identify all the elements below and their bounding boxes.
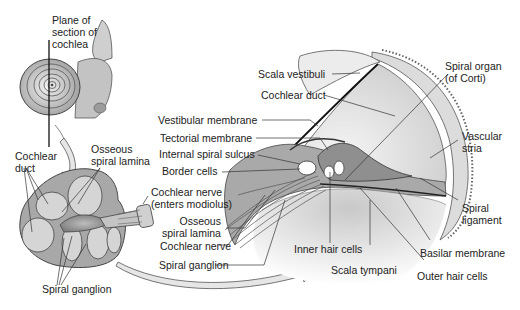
label-spiral-ganglion: Spiral ganglion	[159, 259, 228, 271]
label-internal-spiral-sulcus: Internal spiral sulcus	[159, 148, 255, 160]
label-vascular-stria: Vascular stria	[462, 130, 502, 154]
label-line: Spiral ganglion	[42, 283, 111, 295]
label-line: (of Corti)	[445, 72, 502, 84]
label-spiral-organ: Spiral organ (of Corti)	[445, 60, 502, 84]
label-inset-osseous-spiral-lamina: Osseous spiral lamina	[91, 143, 150, 167]
label-scala-vestibuli: Scala vestibuli	[258, 68, 325, 80]
label-line: spiral lamina	[91, 155, 150, 167]
label-cochlear-nerve-enters: Cochlear nerve (enters modiolus)	[151, 186, 232, 210]
label-line: Plane of	[52, 14, 97, 26]
label-plane-of-section: Plane of section of cochlea	[52, 14, 97, 50]
label-tectorial-membrane: Tectorial membrane	[160, 132, 252, 144]
label-line: Spiral organ	[445, 60, 502, 72]
label-vestibular-membrane: Vestibular membrane	[158, 114, 257, 126]
label-line: cochlea	[52, 38, 97, 50]
label-line: stria	[462, 142, 502, 154]
label-line: duct	[15, 162, 57, 174]
label-scala-tympani: Scala tympani	[331, 264, 397, 276]
label-basilar-membrane: Basilar membrane	[420, 247, 505, 259]
label-inner-hair-cells: Inner hair cells	[294, 243, 362, 255]
label-osseous-spiral-lamina: Osseous spiral lamina	[162, 215, 221, 239]
label-cochlear-nerve: Cochlear nerve	[160, 240, 231, 252]
label-inset-spiral-ganglion: Spiral ganglion	[42, 283, 111, 295]
label-inset-cochlear-duct: Cochlear duct	[15, 150, 57, 174]
label-line: (enters modiolus)	[151, 198, 232, 210]
label-spiral-ligament: Spiral ligament	[462, 202, 502, 226]
label-cochlear-duct: Cochlear duct	[261, 89, 326, 101]
label-line: spiral lamina	[162, 227, 221, 239]
label-line: Cochlear	[15, 150, 57, 162]
cochlea-diagram: Plane of section of cochlea Cochlear duc…	[0, 0, 520, 310]
label-line: section of	[52, 26, 97, 38]
label-border-cells: Border cells	[162, 165, 217, 177]
label-outer-hair-cells: Outer hair cells	[417, 270, 488, 282]
label-line: Osseous	[91, 143, 150, 155]
label-line: ligament	[462, 214, 502, 226]
label-line: Cochlear nerve	[151, 186, 232, 198]
label-line: Osseous	[162, 215, 221, 227]
label-line: Spiral	[462, 202, 502, 214]
label-line: Vascular	[462, 130, 502, 142]
cochlea-section-inset	[20, 168, 154, 285]
